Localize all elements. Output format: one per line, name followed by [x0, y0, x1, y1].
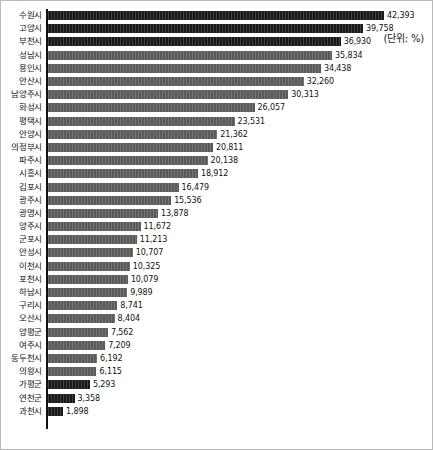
bar-row: 시흥시18,912 [1, 167, 432, 180]
bar-남양주시[interactable] [48, 90, 288, 99]
bar-track: 20,811 [48, 141, 432, 154]
bar-row: 연천군3,358 [1, 391, 432, 404]
bar-안성시[interactable] [48, 248, 133, 257]
value-label: 20,811 [216, 143, 243, 152]
category-label: 성남시 [1, 51, 44, 60]
value-label: 3,358 [78, 394, 100, 403]
bar-고양시[interactable] [48, 24, 363, 33]
value-label: 18,912 [201, 169, 228, 178]
category-label: 평택시 [1, 117, 44, 126]
bar-track: 15,536 [48, 194, 432, 207]
bar-track: 30,313 [48, 88, 432, 101]
bar-track: 36,930 [48, 35, 432, 48]
bar-row: 여주시7,209 [1, 339, 432, 352]
category-label: 오산시 [1, 314, 44, 323]
bar-row: 김포시16,479 [1, 180, 432, 193]
category-label: 의정부시 [1, 143, 44, 152]
bar-track: 3,358 [48, 391, 432, 404]
category-label: 과천시 [1, 407, 44, 416]
value-label: 23,531 [238, 117, 265, 126]
category-label: 용인시 [1, 64, 44, 73]
bar-track: 23,531 [48, 115, 432, 128]
bar-동두천시[interactable] [48, 354, 97, 363]
value-label: 7,209 [108, 341, 130, 350]
category-label: 고양시 [1, 24, 44, 33]
bar-수원시[interactable] [48, 11, 384, 20]
category-label: 파주시 [1, 156, 44, 165]
bar-row: 이천시10,325 [1, 260, 432, 273]
bar-성남시[interactable] [48, 51, 332, 60]
bar-row: 군포시11,213 [1, 233, 432, 246]
bar-row: 오산시8,404 [1, 312, 432, 325]
bar-row: 양평군7,562 [1, 326, 432, 339]
bar-row: 의왕시6,115 [1, 365, 432, 378]
value-label: 6,115 [99, 367, 121, 376]
bar-track: 1,898 [48, 405, 432, 418]
category-label: 안산시 [1, 77, 44, 86]
bar-포천시[interactable] [48, 275, 128, 284]
bar-track: 5,293 [48, 378, 432, 391]
bar-과천시[interactable] [48, 407, 63, 416]
value-label: 10,707 [136, 248, 163, 257]
bar-track: 35,834 [48, 49, 432, 62]
bar-안양시[interactable] [48, 130, 217, 139]
bar-양주시[interactable] [48, 222, 141, 231]
category-label: 가평군 [1, 380, 44, 389]
bar-김포시[interactable] [48, 183, 179, 192]
category-label: 여주시 [1, 341, 44, 350]
bar-평택시[interactable] [48, 117, 235, 126]
bar-광주시[interactable] [48, 196, 171, 205]
bar-안산시[interactable] [48, 77, 304, 86]
bar-row: 수원시42,393 [1, 9, 432, 22]
bar-row: 구리시8,741 [1, 299, 432, 312]
bar-row: 광주시15,536 [1, 194, 432, 207]
bar-row: 광명시13,878 [1, 207, 432, 220]
value-label: 35,834 [335, 51, 362, 60]
bar-광명시[interactable] [48, 209, 158, 218]
value-label: 9,989 [130, 288, 152, 297]
value-label: 10,079 [131, 275, 158, 284]
bar-이천시[interactable] [48, 262, 130, 271]
bar-군포시[interactable] [48, 235, 137, 244]
value-label: 42,393 [387, 11, 414, 20]
bar-여주시[interactable] [48, 341, 105, 350]
value-label: 8,741 [120, 301, 142, 310]
category-label: 이천시 [1, 262, 44, 271]
bar-track: 8,741 [48, 299, 432, 312]
bar-row: 성남시35,834 [1, 49, 432, 62]
bar-track: 8,404 [48, 312, 432, 325]
bar-row: 안성시10,707 [1, 246, 432, 259]
value-label: 16,479 [182, 183, 209, 192]
bar-구리시[interactable] [48, 301, 117, 310]
bar-row: 포천시10,079 [1, 273, 432, 286]
bar-양평군[interactable] [48, 328, 108, 337]
value-label: 15,536 [174, 196, 201, 205]
bar-row: 안양시21,362 [1, 128, 432, 141]
bar-하남시[interactable] [48, 288, 127, 297]
bar-시흥시[interactable] [48, 169, 198, 178]
bar-track: 20,138 [48, 154, 432, 167]
bar-오산시[interactable] [48, 314, 115, 323]
value-label: 32,260 [307, 77, 334, 86]
bar-용인시[interactable] [48, 64, 321, 73]
bar-의왕시[interactable] [48, 367, 96, 376]
bar-화성시[interactable] [48, 103, 255, 112]
bar-연천군[interactable] [48, 394, 75, 403]
category-label: 남양주시 [1, 90, 44, 99]
bar-row: 화성시26,057 [1, 101, 432, 114]
bar-파주시[interactable] [48, 156, 208, 165]
bar-track: 9,989 [48, 286, 432, 299]
value-label: 21,362 [220, 130, 247, 139]
bar-가평군[interactable] [48, 380, 90, 389]
category-label: 포천시 [1, 275, 44, 284]
category-label: 의왕시 [1, 367, 44, 376]
bar-row: 과천시1,898 [1, 405, 432, 418]
bar-track: 11,213 [48, 233, 432, 246]
bar-track: 6,115 [48, 365, 432, 378]
category-label: 화성시 [1, 103, 44, 112]
bar-의정부시[interactable] [48, 143, 213, 152]
category-label: 동두천시 [1, 354, 44, 363]
bar-부천시[interactable] [48, 37, 341, 46]
value-label: 8,404 [118, 314, 140, 323]
value-label: 11,672 [144, 222, 171, 231]
